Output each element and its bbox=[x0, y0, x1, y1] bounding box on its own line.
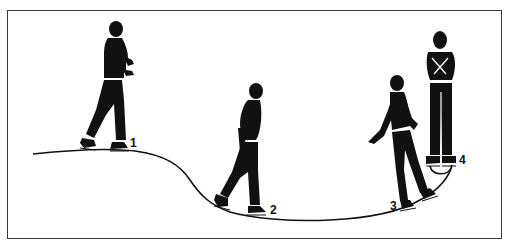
position-label-2: 2 bbox=[270, 204, 277, 216]
position-label-3: 3 bbox=[390, 200, 397, 212]
position-label-1: 1 bbox=[130, 137, 137, 149]
skater-1-figure bbox=[80, 21, 134, 151]
position-label-4: 4 bbox=[459, 154, 466, 166]
illustration-canvas: 1 2 3 4 bbox=[0, 0, 511, 250]
spin-loop-path bbox=[430, 166, 451, 174]
skating-sequence-drawing bbox=[0, 0, 511, 250]
skater-3-figure bbox=[368, 75, 438, 211]
skater-2-figure bbox=[214, 83, 266, 215]
skater-4-figure bbox=[426, 31, 456, 166]
